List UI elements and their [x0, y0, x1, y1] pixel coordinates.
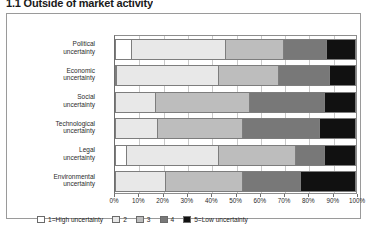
bar-segment: [115, 171, 166, 192]
chart-figure: 1.1 Outside of market activity Political…: [0, 0, 369, 240]
bar-segment: [320, 118, 356, 139]
legend-item[interactable]: 4: [160, 216, 175, 223]
category-label-line: Environmental: [25, 173, 95, 181]
bar-segment: [325, 145, 356, 166]
x-tick-label: 50%: [224, 197, 248, 204]
legend-swatch: [160, 216, 168, 223]
legend-item[interactable]: 5=Low uncertainty: [183, 216, 248, 223]
legend-label: 2: [123, 216, 127, 223]
bar-segment: [115, 145, 127, 166]
bar-row: [115, 145, 356, 166]
bar-segment: [226, 39, 284, 60]
x-tick-label: 70%: [272, 197, 296, 204]
category-label: Socialuncertainty: [25, 93, 95, 108]
bar-segment: [156, 92, 250, 113]
chart-legend: 1=High uncertainty2345=Low uncertainty: [37, 216, 257, 223]
x-tick-label: 10%: [126, 197, 150, 204]
bar-segment: [279, 65, 330, 86]
category-label: Technologicaluncertainty: [25, 120, 95, 135]
bar-segment: [219, 65, 279, 86]
legend-swatch: [112, 216, 120, 223]
legend-swatch: [37, 216, 45, 223]
x-tick-label: 100%: [345, 197, 369, 204]
category-label-line: uncertainty: [25, 154, 95, 162]
bar-segment: [327, 39, 356, 60]
category-label-line: uncertainty: [25, 74, 95, 82]
bar-row: [115, 65, 356, 86]
bar-segment: [325, 92, 356, 113]
bar-row: [115, 118, 356, 139]
category-label: Environmentaluncertainty: [25, 173, 95, 188]
legend-swatch: [183, 216, 191, 223]
legend-item[interactable]: 2: [112, 216, 127, 223]
x-tick-label: 20%: [151, 197, 175, 204]
bar-segment: [243, 171, 301, 192]
bar-segment: [284, 39, 327, 60]
x-tick-label: 80%: [296, 197, 320, 204]
category-label: Politicaluncertainty: [25, 40, 95, 55]
bar-row: [115, 39, 356, 60]
x-tick-label: 40%: [199, 197, 223, 204]
bar-segment: [132, 39, 226, 60]
legend-label: 5=Low uncertainty: [194, 216, 248, 223]
chart-title: 1.1 Outside of market activity: [6, 0, 153, 9]
legend-item[interactable]: 3: [136, 216, 151, 223]
category-label-line: uncertainty: [25, 48, 95, 56]
legend-label: 4: [171, 216, 175, 223]
bar-segment: [115, 39, 132, 60]
bar-segment: [219, 145, 296, 166]
bar-segment: [115, 118, 158, 139]
bar-segment: [330, 65, 357, 86]
legend-label: 3: [147, 216, 151, 223]
bar-row: [115, 92, 356, 113]
category-label-line: Legal: [25, 146, 95, 154]
category-label-line: Technological: [25, 120, 95, 128]
x-tick-label: 90%: [321, 197, 345, 204]
chart-frame: PoliticaluncertaintyEconomicuncertaintyS…: [6, 13, 361, 219]
plot-area: [114, 35, 357, 194]
category-label-line: Economic: [25, 67, 95, 75]
category-label: Economicuncertainty: [25, 67, 95, 82]
bar-segment: [243, 118, 320, 139]
bar-segment: [115, 92, 156, 113]
bar-segment: [166, 171, 243, 192]
legend-swatch: [136, 216, 144, 223]
legend-label: 1=High uncertainty: [48, 216, 103, 223]
bar-row: [115, 171, 356, 192]
category-label-line: uncertainty: [25, 180, 95, 188]
bar-rows: [115, 36, 356, 193]
category-label-line: Political: [25, 40, 95, 48]
category-label-line: Social: [25, 93, 95, 101]
x-tick-label: 60%: [248, 197, 272, 204]
category-label-line: uncertainty: [25, 101, 95, 109]
bar-segment: [296, 145, 325, 166]
legend-item[interactable]: 1=High uncertainty: [37, 216, 103, 223]
category-label: Legaluncertainty: [25, 146, 95, 161]
bar-segment: [250, 92, 325, 113]
bar-segment: [301, 171, 356, 192]
x-tick-label: 0%: [102, 197, 126, 204]
x-tick-label: 30%: [175, 197, 199, 204]
bar-segment: [117, 65, 218, 86]
category-label-line: uncertainty: [25, 127, 95, 135]
bar-segment: [127, 145, 219, 166]
bar-segment: [158, 118, 242, 139]
